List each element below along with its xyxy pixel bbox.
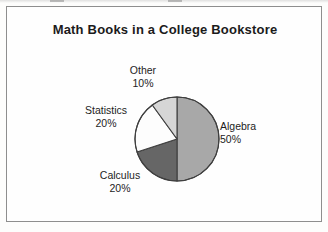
screenshot-root: Math Books in a College Bookstore Other …	[0, 0, 328, 232]
pie-label-algebra: Algebra 50%	[220, 120, 282, 145]
chart-frame: Math Books in a College Bookstore Other …	[6, 6, 322, 222]
pie-slice-algebra[interactable]	[177, 97, 219, 181]
pie-label-other-name: Other	[111, 64, 175, 77]
pie-label-statistics-name: Statistics	[69, 104, 143, 117]
chart-title: Math Books in a College Bookstore	[7, 22, 323, 37]
pie-label-statistics: Statistics 20%	[69, 104, 143, 129]
pie-label-other: Other 10%	[111, 64, 175, 89]
pie-label-algebra-percent: 50%	[220, 133, 282, 146]
pie-label-algebra-name: Algebra	[220, 120, 282, 133]
pie-label-calculus-name: Calculus	[85, 169, 155, 182]
pie-label-calculus: Calculus 20%	[85, 169, 155, 194]
pie-label-other-percent: 10%	[111, 77, 175, 90]
scan-artifact-mark-left	[50, 0, 64, 2]
pie-label-statistics-percent: 20%	[69, 117, 143, 130]
pie-label-calculus-percent: 20%	[85, 182, 155, 195]
scan-artifact-mark-right	[168, 0, 182, 2]
